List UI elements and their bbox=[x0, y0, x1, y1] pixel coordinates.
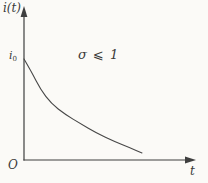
initial-value-subscript: 0 bbox=[13, 55, 17, 63]
y-axis-label: i(t) bbox=[3, 2, 21, 14]
sigma-condition-annotation: σ ⩽ 1 bbox=[78, 48, 119, 61]
y-axis-arrow-icon bbox=[21, 6, 28, 17]
decay-curve bbox=[24, 59, 142, 153]
decay-plot-figure: i(t) i0 σ ⩽ 1 O t bbox=[0, 0, 208, 183]
origin-label: O bbox=[8, 159, 18, 171]
x-axis-label: t bbox=[190, 165, 195, 177]
initial-value-label: i0 bbox=[9, 50, 17, 63]
x-axis-arrow-icon bbox=[185, 157, 196, 164]
plot-canvas bbox=[0, 0, 208, 183]
